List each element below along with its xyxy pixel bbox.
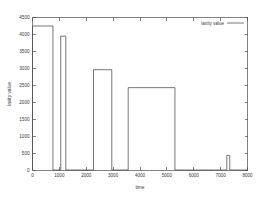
y-tick-label: 2500 xyxy=(19,83,30,88)
x-tick-label: 6000 xyxy=(189,173,200,178)
chart-background xyxy=(0,0,264,201)
y-tick-label: 4000 xyxy=(19,32,30,37)
y-tick-label: 500 xyxy=(22,151,30,156)
chart-plot-svg: 050010001500200025003000350040004500 010… xyxy=(0,0,264,201)
x-tick-label: 0 xyxy=(31,173,34,178)
y-tick-label: 4500 xyxy=(19,15,30,20)
x-axis-title: time xyxy=(135,185,144,190)
x-tick-label: 1000 xyxy=(54,173,65,178)
chart-figure: 050010001500200025003000350040004500 010… xyxy=(0,0,264,201)
y-tick-label: 1500 xyxy=(19,117,30,122)
x-tick-label: 2000 xyxy=(81,173,92,178)
y-tick-label: 3500 xyxy=(19,49,30,54)
y-axis-title: laxity value xyxy=(7,82,12,106)
y-tick-label: 0 xyxy=(27,168,30,173)
y-tick-label: 1000 xyxy=(19,134,30,139)
x-tick-label: 4000 xyxy=(135,173,146,178)
x-tick-label: 3000 xyxy=(108,173,119,178)
y-tick-label: 2000 xyxy=(19,100,30,105)
legend-label-laxity-value: laxity value xyxy=(201,21,224,26)
x-tick-label: 7000 xyxy=(216,173,227,178)
x-tick-label: 5000 xyxy=(162,173,173,178)
y-tick-label: 3000 xyxy=(19,66,30,71)
x-tick-label: 8000 xyxy=(242,173,253,178)
